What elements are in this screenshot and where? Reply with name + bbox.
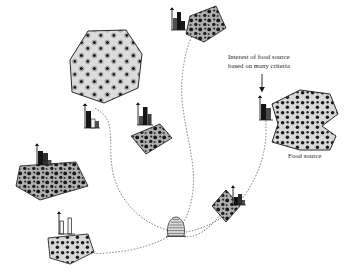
foraging-diagram-canvas: Interest of food source based on many cr… (0, 0, 346, 275)
food-source-patch-right-diamond[interactable] (212, 190, 240, 222)
food-source-patch-left-triangle[interactable] (16, 162, 88, 200)
annotation-arrow (259, 74, 265, 93)
interest-histogram-right-diamond (231, 185, 246, 205)
flight-path-to-bottom-quad (92, 234, 172, 254)
food-source-patch-large-hexagon[interactable] (70, 30, 142, 103)
interest-annotation-line1: Interest of food source (228, 52, 290, 61)
interest-histogram-right-polygon (258, 95, 273, 120)
food-source-patch-right-arrow-polygon[interactable] (272, 90, 338, 150)
interest-histogram-top-quad (170, 7, 186, 30)
interest-annotation-line2: based on many criteria (228, 61, 290, 70)
food-source-patch-centre-quad[interactable] (131, 124, 172, 154)
interest-annotation: Interest of food source based on many cr… (228, 52, 290, 71)
flight-path-to-right-diamond (178, 210, 224, 237)
interest-histogram-bottom-quad (57, 211, 75, 234)
diagram-svg (0, 0, 346, 275)
food-source-patch-bottom-quad[interactable] (48, 234, 94, 264)
food-source-label: Food source (288, 152, 322, 159)
flight-path-to-top-quad (178, 36, 193, 231)
food-source-patch-top-quad[interactable] (186, 6, 226, 42)
interest-histogram-large-hexagon (83, 103, 101, 128)
flight-path-to-large-hexagon (95, 108, 176, 232)
bee-hive (166, 217, 186, 236)
interest-histogram-centre-quad (136, 102, 153, 125)
interest-histogram-left-triangle (35, 143, 53, 165)
